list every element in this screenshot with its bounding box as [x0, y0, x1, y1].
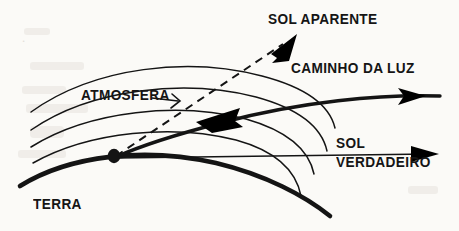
- label-caminho-da-luz: CAMINHO DA LUZ: [291, 61, 415, 76]
- label-sol-aparente: SOL APARENTE: [268, 12, 378, 27]
- refraction-diagram: .: [0, 0, 459, 231]
- atmosphere-arcs: [31, 67, 335, 196]
- label-sol-verdadeiro: SOL VERDADEIRO: [336, 134, 434, 171]
- label-sol-verdadeiro-line1: SOL: [336, 135, 365, 151]
- label-sol-verdadeiro-line2: VERDADEIRO: [336, 154, 431, 170]
- apparent-sun-arrowhead: [271, 34, 297, 63]
- atmosphere-arc-2: [31, 88, 327, 151]
- label-terra: TERRA: [33, 197, 82, 212]
- label-atmosfera: ATMOSFERA: [81, 88, 170, 103]
- observer-dot: [108, 149, 121, 163]
- atmosphere-arc-outer: [31, 67, 335, 128]
